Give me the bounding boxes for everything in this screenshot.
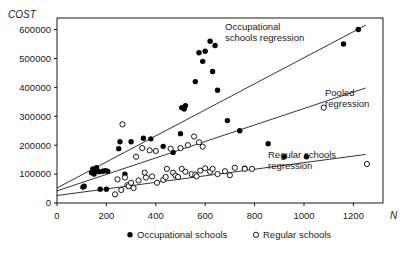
x-tick-label: 1200 bbox=[343, 210, 364, 221]
scatter-chart-figure: 0100000200000300000400000500000600000020… bbox=[0, 0, 404, 256]
data-point-occupational bbox=[196, 50, 201, 55]
x-tick-label: 400 bbox=[148, 210, 164, 221]
data-point-regular bbox=[210, 166, 215, 171]
y-tick-label: 200000 bbox=[19, 140, 51, 151]
data-point-occupational bbox=[207, 38, 212, 43]
data-point-occupational bbox=[98, 186, 103, 191]
data-point-regular bbox=[200, 144, 205, 149]
data-point-occupational bbox=[200, 59, 205, 64]
data-point-regular bbox=[183, 169, 188, 174]
data-point-regular bbox=[185, 143, 190, 148]
data-point-regular bbox=[154, 180, 159, 185]
x-tick-label: 200 bbox=[98, 210, 114, 221]
y-tick-label: 0 bbox=[46, 197, 51, 208]
data-point-occupational bbox=[225, 118, 230, 123]
data-point-regular bbox=[194, 174, 199, 179]
data-point-regular bbox=[232, 165, 237, 170]
pooled-regression-label: Pooled bbox=[325, 87, 355, 98]
regression-line-regular-schools-regression bbox=[57, 154, 366, 195]
data-point-regular bbox=[191, 134, 196, 139]
legend-marker-regular bbox=[253, 232, 258, 237]
data-point-regular bbox=[115, 177, 120, 182]
data-point-occupational bbox=[128, 139, 133, 144]
data-point-regular bbox=[227, 173, 232, 178]
regular-regression-label-line2: regression bbox=[268, 160, 312, 171]
data-point-occupational bbox=[141, 136, 146, 141]
legend-label-occupational: Occupational schools bbox=[137, 229, 228, 240]
y-tick-label: 300000 bbox=[19, 111, 51, 122]
data-point-regular bbox=[120, 122, 125, 127]
x-tick-label: 800 bbox=[247, 210, 263, 221]
data-point-regular bbox=[122, 175, 127, 180]
data-point-regular bbox=[153, 148, 158, 153]
data-point-regular bbox=[142, 170, 147, 175]
data-point-regular bbox=[198, 168, 203, 173]
y-tick-label: 100000 bbox=[19, 168, 51, 179]
pooled-regression-label-line2: regression bbox=[325, 98, 369, 109]
y-tick-label: 500000 bbox=[19, 53, 51, 64]
data-point-occupational bbox=[117, 139, 122, 144]
data-point-regular bbox=[168, 146, 173, 151]
data-point-occupational bbox=[341, 41, 346, 46]
data-point-regular bbox=[242, 166, 247, 171]
data-point-regular bbox=[178, 145, 183, 150]
data-point-occupational bbox=[210, 69, 215, 74]
x-axis-title: N bbox=[390, 210, 398, 221]
data-point-regular bbox=[163, 174, 168, 179]
data-point-occupational bbox=[160, 144, 165, 149]
data-point-occupational bbox=[237, 128, 242, 133]
data-point-regular bbox=[203, 166, 208, 171]
data-point-regular bbox=[119, 187, 124, 192]
data-point-regular bbox=[364, 161, 369, 166]
occupational-regression-label-line2: schools regression bbox=[225, 32, 304, 43]
legend-marker-occupational bbox=[127, 232, 132, 237]
data-point-regular bbox=[215, 171, 220, 176]
data-point-regular bbox=[149, 174, 154, 179]
data-point-regular bbox=[140, 145, 145, 150]
data-point-occupational bbox=[148, 136, 153, 141]
data-point-regular bbox=[222, 169, 227, 174]
data-point-regular bbox=[112, 192, 117, 197]
data-point-regular bbox=[131, 185, 136, 190]
data-point-occupational bbox=[116, 146, 121, 151]
data-point-occupational bbox=[356, 27, 361, 32]
y-axis-title: COST bbox=[8, 9, 37, 20]
y-tick-label: 600000 bbox=[19, 24, 51, 35]
data-point-regular bbox=[164, 166, 169, 171]
data-point-occupational bbox=[183, 103, 188, 108]
data-point-regular bbox=[128, 180, 133, 185]
data-point-occupational bbox=[104, 186, 109, 191]
regular-regression-label: Regular schools bbox=[268, 149, 336, 160]
data-point-occupational bbox=[212, 43, 217, 48]
data-point-occupational bbox=[265, 141, 270, 146]
data-point-regular bbox=[175, 174, 180, 179]
data-point-regular bbox=[196, 140, 201, 145]
data-point-occupational bbox=[81, 184, 86, 189]
data-point-regular bbox=[250, 166, 255, 171]
x-tick-label: 0 bbox=[54, 210, 59, 221]
x-tick-label: 1000 bbox=[293, 210, 314, 221]
y-tick-label: 400000 bbox=[19, 82, 51, 93]
regression-line-occupational-schools-regression bbox=[57, 25, 366, 188]
legend-label-regular: Regular schools bbox=[263, 229, 331, 240]
data-point-regular bbox=[136, 178, 141, 183]
data-point-regular bbox=[147, 148, 152, 153]
x-tick-label: 600 bbox=[197, 210, 213, 221]
data-point-occupational bbox=[105, 169, 110, 174]
data-point-occupational bbox=[178, 131, 183, 136]
chart-svg: 0100000200000300000400000500000600000020… bbox=[0, 0, 404, 256]
data-point-occupational bbox=[202, 49, 207, 54]
data-point-regular bbox=[143, 175, 148, 180]
regression-line-pooled-regression bbox=[57, 88, 366, 191]
occupational-regression-label: Occupational bbox=[225, 21, 280, 32]
data-point-occupational bbox=[215, 88, 220, 93]
data-point-regular bbox=[133, 154, 138, 159]
data-point-occupational bbox=[193, 79, 198, 84]
